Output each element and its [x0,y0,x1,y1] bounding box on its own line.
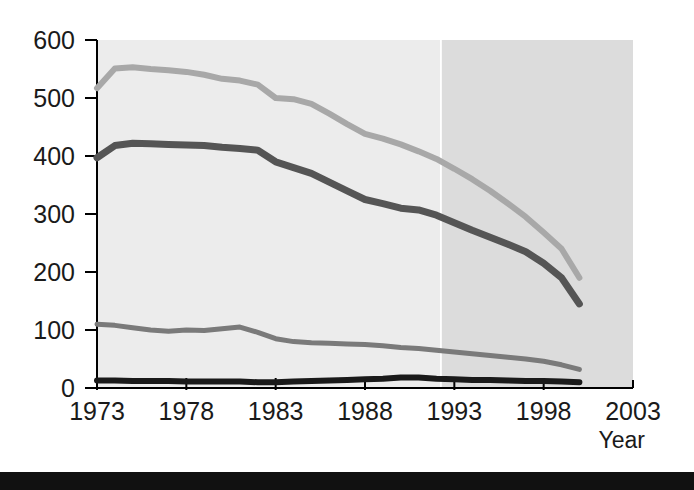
x-tick-label: 1978 [159,397,215,425]
y-tick-label: 100 [33,316,75,344]
y-tick-label: 200 [33,258,75,286]
x-tick-label: 1993 [427,397,483,425]
x-tick-label: 1983 [248,397,304,425]
y-axis-tick-labels: 0100200300400500600 [33,26,75,402]
line-chart: 0100200300400500600 19731978198319881993… [0,0,694,472]
y-tick-label: 300 [33,200,75,228]
x-tick-label: 1973 [69,397,125,425]
footer-rule [0,472,694,490]
y-tick-label: 600 [33,26,75,54]
plot-background-shaded-projection [442,40,633,388]
chart-figure: 0100200300400500600 19731978198319881993… [0,0,694,490]
x-axis-title: Year [599,427,646,453]
y-tick-label: 500 [33,84,75,112]
series-black [97,378,579,383]
y-tick-label: 400 [33,142,75,170]
x-axis-tick-labels: 1973197819831988199319982003 [69,397,661,425]
y-axis-ticks [85,40,97,388]
x-tick-label: 1998 [516,397,572,425]
x-tick-label: 2003 [605,397,661,425]
x-tick-label: 1988 [337,397,393,425]
